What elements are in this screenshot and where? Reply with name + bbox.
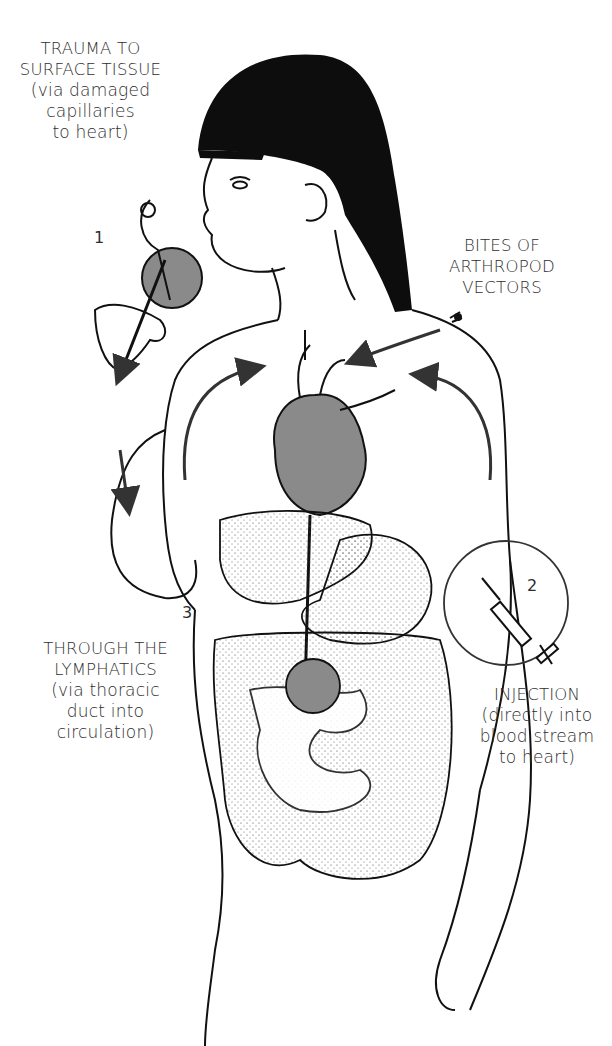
injection-detail-2: blood stream <box>462 726 612 747</box>
bites-title-3: VECTORS <box>432 277 572 298</box>
label-lymphatics: THROUGH THE LYMPHATICS (via thoracic duc… <box>18 638 193 743</box>
injection-title: INJECTION <box>462 684 612 705</box>
trauma-detail-2: capillaries <box>8 101 173 122</box>
trauma-title-1: TRAUMA TO <box>8 38 173 59</box>
arthropod-icon <box>450 312 462 322</box>
syringe-icon <box>482 578 558 664</box>
anatomy-illustration <box>0 0 612 1046</box>
label-trauma: TRAUMA TO SURFACE TISSUE (via damaged ca… <box>8 38 173 143</box>
intestines <box>214 633 452 879</box>
label-bites: BITES OF ARTHROPOD VECTORS <box>432 235 572 298</box>
label-injection: INJECTION (directly into blood stream to… <box>462 684 612 768</box>
lymphatics-title-1: THROUGH THE <box>18 638 193 659</box>
trauma-title-2: SURFACE TISSUE <box>8 59 173 80</box>
route-number-1: 1 <box>94 228 104 247</box>
hand-with-apple <box>95 200 202 375</box>
hair <box>198 54 412 312</box>
route-number-2: 2 <box>527 576 537 595</box>
lymphatics-detail-1: (via thoracic <box>18 680 193 701</box>
lymphatics-title-2: LYMPHATICS <box>18 659 193 680</box>
trauma-detail-3: to heart) <box>8 122 173 143</box>
bites-title-1: BITES OF <box>432 235 572 256</box>
route-number-3: 3 <box>182 603 192 622</box>
injection-detail-3: to heart) <box>462 747 612 768</box>
trauma-detail-1: (via damaged <box>8 80 173 101</box>
lymphatics-detail-2: duct into <box>18 701 193 722</box>
lymphatics-detail-3: circulation) <box>18 722 193 743</box>
bites-title-2: ARTHROPOD <box>432 256 572 277</box>
head <box>204 158 355 320</box>
injection-inset <box>444 541 568 665</box>
injection-detail-1: (directly into <box>462 705 612 726</box>
liver-and-stomach <box>220 511 432 644</box>
